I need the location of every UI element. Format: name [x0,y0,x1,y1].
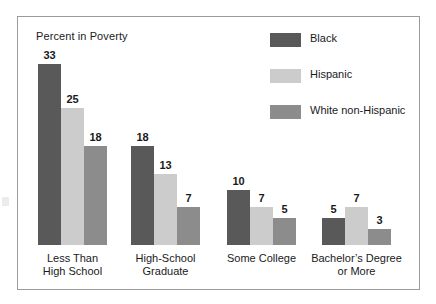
bar[interactable] [345,207,368,245]
bar-value-label: 18 [80,131,111,143]
bar-group: 332518Less ThanHigh School [38,16,107,290]
bar[interactable] [177,207,200,245]
bar-group: 573Bachelor’s Degreeor More [322,16,391,290]
bar[interactable] [38,64,61,245]
bar[interactable] [154,174,177,245]
bar[interactable] [368,229,391,245]
bar[interactable] [84,146,107,245]
bar-value-label: 5 [269,203,300,215]
bar-value-label: 10 [223,175,254,187]
category-label: Bachelor’s Degreeor More [297,252,417,278]
bar-group: 1075Some College [227,16,296,290]
plot-area: 332518Less ThanHigh School18137High-Scho… [17,16,420,290]
bar[interactable] [61,108,84,245]
bar[interactable] [273,218,296,245]
bar-value-label: 25 [57,93,88,105]
bar-value-label: 33 [34,49,65,61]
bar-value-label: 7 [173,192,204,204]
bar-value-label: 3 [364,214,395,226]
poverty-bar-chart-figure: Percent in Poverty Black Hispanic White … [0,0,436,304]
bar-value-label: 13 [150,159,181,171]
bar[interactable] [322,218,345,245]
scan-artifact [2,197,9,206]
bar-value-label: 7 [341,192,372,204]
bar-group: 18137High-SchoolGraduate [131,16,200,290]
bar-value-label: 18 [127,131,158,143]
